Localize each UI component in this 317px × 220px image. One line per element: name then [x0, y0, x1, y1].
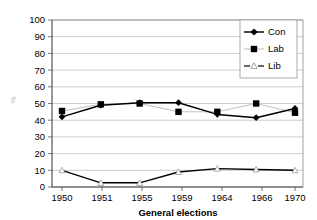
- y-tick-label: 0: [40, 181, 45, 192]
- y-tick-label: 10: [34, 165, 45, 176]
- legend-label-lib: Lib: [268, 60, 281, 71]
- data-point-marker: [175, 109, 181, 115]
- legend-label-lab: Lab: [268, 43, 284, 54]
- x-tick-label: 1970: [284, 192, 305, 203]
- square-marker-icon: [251, 46, 257, 52]
- y-axis-label: %: [9, 96, 18, 103]
- x-tick-label: 1950: [51, 192, 72, 203]
- legend-label-con: Con: [268, 26, 285, 37]
- y-tick-label: 50: [34, 98, 45, 109]
- y-tick-label: 100: [29, 14, 45, 25]
- x-tick-label: 1966: [251, 192, 272, 203]
- y-tick-label: 20: [34, 148, 45, 159]
- x-axis-tick-labels: 1950 1951 1955 1959 1964 1966 1970: [51, 192, 305, 203]
- data-point-marker: [59, 108, 65, 114]
- x-axis-title: General elections: [138, 207, 217, 218]
- y-tick-label: 30: [34, 131, 45, 142]
- line-chart: 100 90 80 70 60 50 40 30 20 10 0 % 1950: [0, 0, 317, 220]
- x-tick-label: 1955: [131, 192, 152, 203]
- x-axis-ticks: [62, 187, 295, 191]
- y-tick-label: 90: [34, 31, 45, 42]
- chart-container: 100 90 80 70 60 50 40 30 20 10 0 % 1950: [0, 0, 317, 220]
- y-tick-label: 40: [34, 115, 45, 126]
- legend: Con Lab Lib: [240, 20, 297, 78]
- y-tick-label: 60: [34, 81, 45, 92]
- y-axis-tick-labels: 100 90 80 70 60 50 40 30 20 10 0: [29, 14, 45, 192]
- data-point-marker: [253, 100, 259, 106]
- y-axis-ticks: [48, 20, 52, 187]
- x-tick-label: 1964: [211, 192, 232, 203]
- x-tick-label: 1959: [171, 192, 192, 203]
- y-tick-label: 70: [34, 65, 45, 76]
- y-tick-label: 80: [34, 48, 45, 59]
- x-tick-label: 1951: [91, 192, 112, 203]
